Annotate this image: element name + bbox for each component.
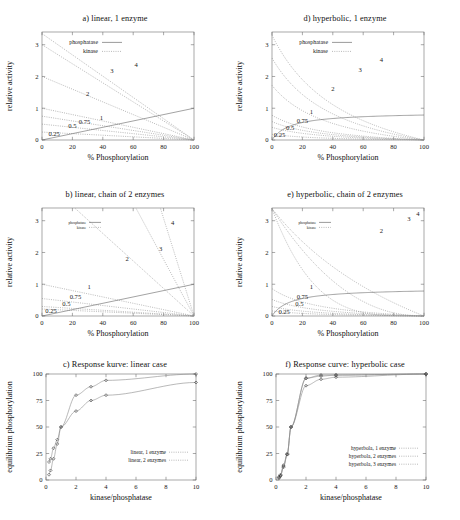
curve-label-0.5: 0.5 [62, 300, 71, 307]
x-tick-label: 10 [193, 483, 200, 490]
data-point [48, 460, 51, 463]
curve-label-4: 4 [135, 61, 139, 68]
panel-b: b) linear, chain of 2 enzymes02040608010… [0, 190, 230, 340]
y-tick-label: 0 [35, 136, 39, 143]
curve-label-0.5: 0.5 [68, 122, 77, 129]
y-tick-label: 100 [263, 370, 274, 377]
curve-label-2: 2 [125, 255, 128, 262]
y-tick-label: 1 [265, 281, 268, 288]
curve-label-2: 2 [380, 227, 383, 234]
y-tick-label: 0 [265, 136, 269, 143]
curve-label-1: 1 [87, 283, 90, 290]
x-tick-label: 6 [364, 483, 368, 490]
y-axis-title: relative activity [235, 61, 244, 111]
y-tick-label: 1 [35, 281, 38, 288]
panel-a: a) linear, 1 enzyme0204060801000123% Pho… [0, 14, 230, 164]
y-tick-label: 3 [35, 217, 39, 224]
y-tick-label: 3 [35, 41, 39, 48]
x-tick-label: 20 [299, 319, 306, 326]
y-tick-label: 2 [265, 249, 268, 256]
x-tick-label: 8 [164, 483, 168, 490]
y-axis-title: relative activity [235, 237, 244, 287]
x-tick-label: 2 [304, 483, 307, 490]
y-tick-label: 2 [35, 73, 38, 80]
x-tick-label: 20 [69, 319, 76, 326]
response-curve-0 [49, 374, 196, 462]
curve-0.5 [42, 124, 194, 140]
x-tick-label: 60 [130, 143, 137, 150]
x-tick-label: 0 [274, 483, 278, 490]
y-tick-label: 0 [269, 476, 273, 483]
x-tick-label: 2 [74, 483, 77, 490]
y-tick-label: 2 [265, 73, 268, 80]
curve-label-3: 3 [407, 215, 411, 222]
panel-e: e) hyperbolic, chain of 2 enzymes0204060… [230, 190, 460, 340]
curve-3 [136, 209, 194, 316]
curve-label-0.25: 0.25 [45, 307, 57, 314]
y-tick-label: 50 [266, 423, 273, 430]
curve-label-1: 1 [310, 108, 313, 115]
x-tick-label: 0 [40, 143, 44, 150]
legend-label-phosphatase: phosphatase [298, 221, 316, 225]
legend-label-1: hyperbola, 2 enzymes [349, 453, 396, 459]
x-tick-label: 40 [330, 143, 337, 150]
curve-label-2: 2 [86, 90, 89, 97]
panel-c: c) Response kurve: linear case0246810025… [0, 360, 230, 515]
legend-label-0: hyperbola, 1 enzyme [351, 445, 397, 451]
x-tick-label: 60 [360, 143, 367, 150]
x-tick-label: 100 [189, 319, 200, 326]
response-curve-1 [49, 382, 196, 474]
x-tick-label: 100 [419, 319, 430, 326]
figure-canvas: a) linear, 1 enzyme0204060801000123% Pho… [0, 0, 460, 520]
y-tick-label: 75 [266, 397, 273, 404]
curve-2 [272, 85, 424, 140]
x-tick-label: 100 [419, 143, 430, 150]
legend-label-kinase: kinase [83, 48, 98, 54]
panel-d: d) hyperbolic, 1 enzyme0204060801000123%… [230, 14, 460, 164]
x-tick-label: 8 [394, 483, 398, 490]
x-tick-label: 0 [40, 319, 44, 326]
y-tick-label: 100 [33, 370, 44, 377]
legend-label-0: linear, 1 enzyme [130, 449, 166, 455]
curve-label-1: 1 [100, 114, 103, 121]
curve-label-0.25: 0.25 [274, 131, 286, 138]
y-tick-label: 25 [266, 450, 273, 457]
legend-label-phosphatase: phosphatase [69, 39, 98, 45]
x-tick-label: 80 [390, 143, 397, 150]
curve-0.25 [42, 132, 194, 140]
x-tick-label: 40 [100, 319, 107, 326]
plot-frame [46, 374, 196, 480]
curve-label-4: 4 [380, 56, 384, 63]
y-tick-label: 0 [265, 312, 269, 319]
plot-frame [272, 32, 424, 140]
panel-f: f) Response curve: hyperbolic case024681… [230, 360, 460, 515]
panel-f-plot: 02468100255075100kinase/phosphataseequil… [230, 360, 460, 515]
panel-b-plot: 0204060801000123% Phosphorylationrelativ… [0, 190, 230, 340]
legend-label-kinase: kinase [307, 226, 317, 230]
x-tick-label: 0 [44, 483, 48, 490]
x-tick-label: 60 [130, 319, 137, 326]
legend-label-phosphatase: phosphatase [68, 221, 86, 225]
x-tick-label: 20 [299, 143, 306, 150]
curve-0.75 [42, 116, 194, 140]
y-tick-label: 0 [35, 312, 39, 319]
curve-label-0.5: 0.5 [295, 300, 304, 307]
x-tick-label: 80 [390, 319, 397, 326]
legend-label-1: linear, 2 enzymes [128, 457, 166, 463]
y-tick-label: 3 [265, 41, 269, 48]
y-axis-title: relative activity [5, 237, 14, 287]
curve-2 [75, 209, 194, 316]
legend-label-2: hyperbola, 3 enzymes [349, 461, 396, 467]
data-point [48, 473, 51, 476]
curve-0.5 [272, 127, 424, 140]
curve-label-0.75: 0.75 [297, 117, 309, 124]
legend-label-kinase: kinase [77, 226, 87, 230]
y-axis-title: equilibrium phosphorylation [235, 381, 244, 472]
curve-label-3: 3 [110, 67, 114, 74]
y-tick-label: 1 [265, 105, 268, 112]
x-tick-label: 40 [100, 143, 107, 150]
curve-4 [161, 209, 194, 316]
x-tick-label: 40 [330, 319, 337, 326]
x-axis-title: % Phosphorylation [87, 329, 148, 338]
y-tick-label: 2 [35, 249, 38, 256]
